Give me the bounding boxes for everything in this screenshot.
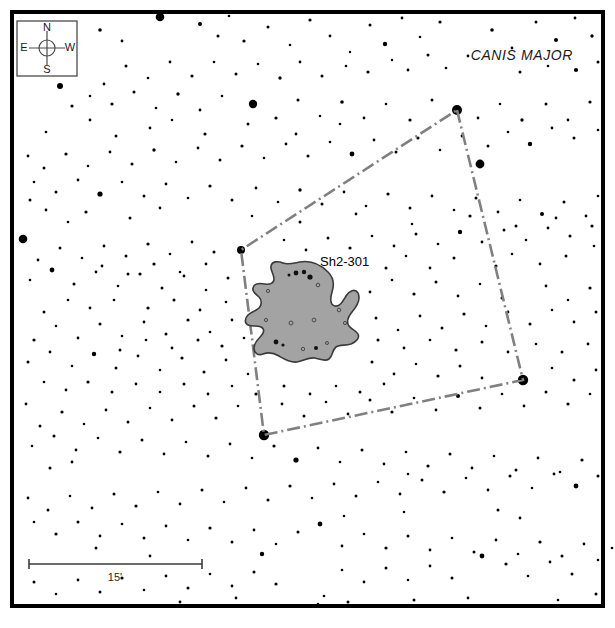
star — [247, 123, 250, 126]
star — [25, 403, 28, 406]
star — [369, 291, 372, 294]
nebula-star — [326, 342, 329, 345]
star — [549, 561, 552, 564]
star — [127, 421, 130, 424]
star — [253, 529, 256, 532]
star — [121, 335, 124, 338]
star — [37, 259, 40, 262]
star — [169, 253, 172, 256]
star — [515, 225, 518, 228]
star — [554, 38, 558, 42]
star — [247, 373, 250, 376]
star — [535, 343, 538, 346]
star — [103, 245, 106, 248]
star — [179, 271, 182, 274]
star — [588, 286, 591, 289]
star — [487, 145, 490, 148]
star — [27, 155, 30, 158]
star — [263, 157, 266, 160]
star — [99, 323, 102, 326]
star — [597, 61, 600, 64]
star — [105, 409, 108, 412]
star — [515, 469, 518, 472]
star — [339, 123, 342, 126]
star — [191, 241, 194, 244]
nebula-star — [314, 346, 318, 350]
star — [109, 151, 112, 154]
star — [567, 119, 570, 122]
star — [519, 71, 522, 74]
star — [272, 444, 275, 447]
star — [480, 554, 485, 559]
star — [393, 245, 396, 248]
star — [391, 59, 393, 61]
star — [405, 451, 408, 454]
star — [297, 531, 300, 534]
star — [295, 133, 298, 136]
star — [231, 541, 234, 544]
star — [32, 338, 35, 341]
star — [27, 497, 30, 500]
star — [115, 135, 118, 138]
star — [511, 253, 514, 256]
star — [59, 247, 62, 250]
star — [308, 18, 311, 21]
star — [251, 457, 254, 460]
star — [547, 227, 550, 230]
star — [350, 152, 355, 157]
star — [419, 36, 422, 39]
star — [237, 246, 245, 254]
star — [429, 267, 432, 270]
star — [54, 532, 57, 535]
star — [53, 435, 56, 438]
star — [179, 503, 182, 506]
star — [538, 540, 541, 543]
star — [67, 299, 70, 302]
star — [242, 39, 245, 42]
star — [245, 487, 248, 490]
star — [203, 371, 206, 374]
star — [121, 181, 124, 184]
star — [519, 199, 522, 202]
star — [49, 467, 52, 470]
star — [70, 104, 73, 107]
nebula-star — [312, 318, 316, 322]
star — [267, 26, 270, 29]
star — [373, 139, 376, 142]
nebula-star — [288, 274, 291, 277]
star — [429, 549, 432, 552]
star — [545, 285, 548, 288]
star — [31, 445, 34, 448]
star — [407, 579, 410, 582]
nebula-star — [264, 318, 267, 321]
star — [385, 103, 388, 106]
star — [213, 251, 216, 254]
star — [231, 585, 234, 588]
star — [343, 191, 346, 194]
star — [183, 275, 186, 278]
compass-south-label: S — [43, 63, 50, 75]
star — [325, 401, 328, 404]
star — [438, 20, 441, 23]
star — [371, 235, 374, 238]
star — [57, 83, 63, 89]
star — [535, 21, 538, 24]
star — [91, 507, 94, 510]
star — [597, 559, 600, 562]
star — [355, 213, 358, 216]
star — [341, 545, 344, 548]
star — [277, 201, 280, 204]
star — [355, 495, 358, 498]
star — [409, 207, 412, 210]
star — [77, 521, 80, 524]
star — [523, 405, 526, 408]
star — [147, 77, 150, 80]
star — [507, 131, 510, 134]
star — [84, 210, 87, 213]
star — [223, 501, 226, 504]
star — [473, 551, 476, 554]
nebula-star — [337, 308, 341, 312]
star — [597, 129, 600, 132]
star — [203, 132, 206, 135]
star — [585, 215, 588, 218]
